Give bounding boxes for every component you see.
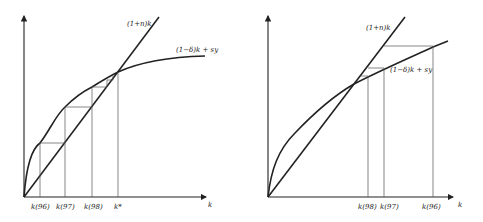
right-curve-accumulation <box>268 41 448 197</box>
left-tick-k97: k(97) <box>56 203 75 211</box>
right-curve-label: (1−δ)k + sy <box>390 66 433 74</box>
right-line-label: (1+n)k <box>366 24 391 32</box>
right-tick-k97: k(97) <box>380 203 399 211</box>
left-tick-k98: k(98) <box>84 203 103 211</box>
left-curve-label: (1−δ)k + sy <box>176 46 219 54</box>
solow-convergence-diagrams: (1+n)k (1−δ)k + sy k k(96) k(97) k(98) k… <box>0 0 483 222</box>
left-staircase <box>40 72 118 197</box>
left-tick-k96: k(96) <box>31 203 50 211</box>
left-x-axis-label: k <box>208 201 212 209</box>
right-diagram: (1+n)k (1−δ)k + sy k k(98) k(97) k(96) <box>268 16 462 211</box>
right-tick-k96: k(96) <box>422 203 441 211</box>
left-diagram: (1+n)k (1−δ)k + sy k k(96) k(97) k(98) k… <box>24 16 219 211</box>
right-x-axis-label: k <box>458 201 462 209</box>
right-line-1n-k <box>268 17 405 197</box>
left-tick-kstar: k* <box>114 203 122 211</box>
right-tick-k98: k(98) <box>358 203 377 211</box>
left-line-label: (1+n)k <box>127 20 152 28</box>
